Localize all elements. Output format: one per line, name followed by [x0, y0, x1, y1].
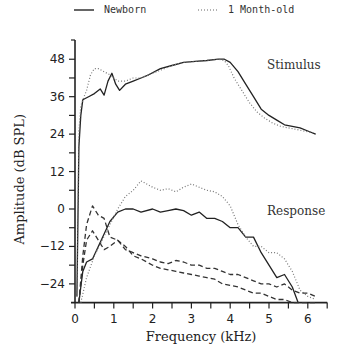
- series-line: [79, 231, 316, 303]
- x-tick-label: 3: [188, 312, 196, 326]
- series-line: [81, 181, 316, 303]
- y-tick-label: 48: [50, 52, 65, 66]
- annotation-label: Response: [267, 204, 325, 218]
- x-tick-label: 0: [71, 312, 79, 326]
- series-line: [77, 59, 316, 296]
- line-chart: −24−120122436480123456Frequency (kHz)Amp…: [0, 0, 343, 356]
- x-axis-title: Frequency (kHz): [146, 329, 257, 344]
- y-axis-title: Amplitude (dB SPL): [12, 114, 27, 246]
- y-tick-label: 36: [50, 90, 65, 104]
- series-line: [79, 206, 316, 303]
- x-tick-label: 4: [226, 312, 234, 326]
- x-tick-label: 1: [110, 312, 118, 326]
- y-tick-label: −24: [40, 277, 65, 291]
- y-tick-label: 0: [57, 202, 65, 216]
- y-tick-label: −12: [40, 239, 65, 253]
- series-line: [79, 209, 298, 303]
- series-line: [77, 59, 316, 296]
- y-tick-label: 12: [50, 165, 65, 179]
- x-tick-label: 2: [149, 312, 157, 326]
- y-tick-label: 24: [50, 127, 65, 141]
- x-tick-label: 6: [304, 312, 312, 326]
- annotation-label: Stimulus: [267, 58, 321, 72]
- x-tick-label: 5: [265, 312, 273, 326]
